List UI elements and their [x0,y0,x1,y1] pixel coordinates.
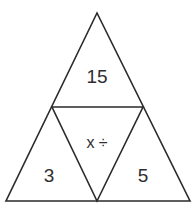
center-region-label: x ÷ [86,134,107,151]
bottom-left-region-label: 3 [44,165,55,186]
inner-triangle [52,107,143,201]
top-region-label: 15 [86,66,107,87]
triangle-diagram: 15 x ÷ 3 5 [0,0,196,211]
bottom-right-region-label: 5 [138,165,149,186]
